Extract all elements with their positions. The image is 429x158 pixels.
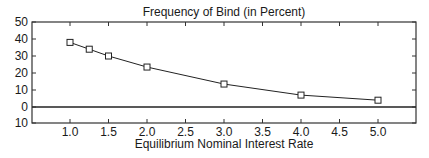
data-point-marker <box>67 39 73 45</box>
data-point-marker <box>375 97 381 103</box>
data-point-marker <box>298 92 304 98</box>
x-tick-label: 1.0 <box>62 125 79 139</box>
data-point-marker <box>144 64 150 70</box>
data-point-marker <box>86 46 92 52</box>
series-markers <box>67 39 381 103</box>
data-point-marker <box>221 81 227 87</box>
y-tick-label: 20 <box>15 66 29 80</box>
y-tick-label: 10 <box>15 83 29 97</box>
chart-title: Frequency of Bind (in Percent) <box>143 5 306 19</box>
y-tick-label: 10 <box>15 116 29 130</box>
x-tick-label: 1.5 <box>100 125 117 139</box>
series-line <box>70 42 378 100</box>
y-tick-label: 50 <box>15 15 29 29</box>
x-tick-label: 4.5 <box>331 125 348 139</box>
chart: Frequency of Bind (in Percent) 504030201… <box>0 0 429 158</box>
y-tick-label: 40 <box>15 32 29 46</box>
y-tick-label: 0 <box>21 100 28 114</box>
y-tick-label: 30 <box>15 49 29 63</box>
x-tick-label: 5.0 <box>370 125 387 139</box>
x-axis-label: Equilibrium Nominal Interest Rate <box>135 137 314 151</box>
y-axis-ticks: 5040302010010 <box>15 15 416 130</box>
x-axis-ticks: 1.01.52.02.53.03.54.04.55.0 <box>62 22 387 139</box>
plot-area <box>32 22 416 123</box>
data-point-marker <box>106 53 112 59</box>
